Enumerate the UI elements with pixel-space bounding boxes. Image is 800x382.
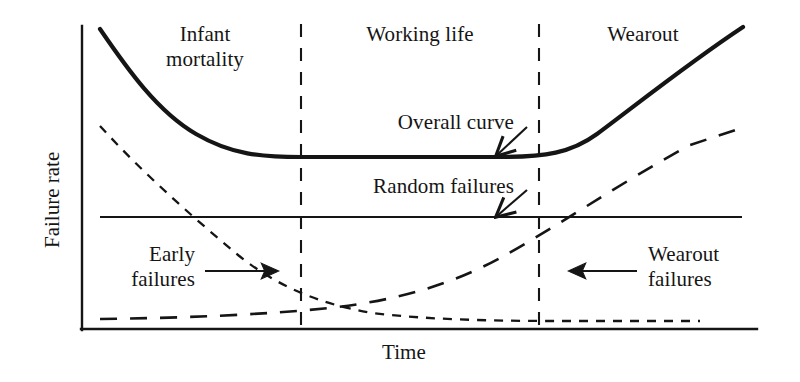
phase-label-infant-mortality-line1: Infant [135, 22, 275, 47]
y-axis-title: Failure rate [40, 152, 65, 248]
phase-label-infant-mortality-line2: mortality [135, 47, 275, 72]
phase-label-wearout: Wearout [568, 22, 718, 47]
annotation-wearout-failures-label-line2: failures [648, 267, 788, 292]
annotation-overall-curve-label: Overall curve [300, 110, 514, 135]
annotation-wearout-failures-label-line1: Wearout [648, 242, 788, 267]
annotation-random-failures-label: Random failures [280, 174, 514, 199]
x-axis-title: Time [344, 340, 464, 365]
bathtub-curve-figure: Failure rate Time Infant mortality Worki… [0, 0, 800, 382]
phase-label-working-life: Working life [330, 22, 510, 47]
annotation-early-failures-label-line1: Early [100, 242, 195, 267]
annotation-early-failures-label-line2: failures [100, 267, 195, 292]
